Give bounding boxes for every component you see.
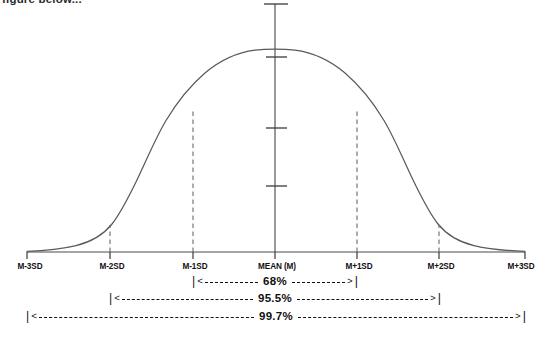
bracket-68-left-line xyxy=(205,282,258,284)
axis-label-m-2sd: M-2SD xyxy=(100,262,125,272)
bracket-955-left-cap: | xyxy=(107,293,114,305)
normal-curve-path xyxy=(27,49,525,251)
bracket-68-value: 68% xyxy=(260,275,290,287)
bracket-955: | < 95.5% > | xyxy=(107,292,443,306)
bracket-68-left-arrow: < xyxy=(197,276,203,288)
bracket-997-left-cap: | xyxy=(24,311,31,323)
bracket-955-left-arrow: < xyxy=(114,293,120,305)
bracket-997-value: 99.7% xyxy=(256,310,296,322)
bracket-955-value: 95.5% xyxy=(255,292,295,304)
bracket-68: | < 68% > | xyxy=(190,275,360,289)
normal-distribution-figure: figure below... xyxy=(0,0,551,339)
bracket-997-left-arrow: < xyxy=(31,311,37,323)
axis-label-m-plus-2sd: M+2SD xyxy=(427,262,454,272)
axis-label-m-1sd: M-1SD xyxy=(183,262,208,272)
bracket-68-left-cap: | xyxy=(190,276,197,288)
bracket-68-right-cap: | xyxy=(353,276,360,288)
axis-label-mean: MEAN (M) xyxy=(258,262,296,272)
bracket-997: | < 99.7% > | xyxy=(24,310,528,324)
bracket-997-right-cap: | xyxy=(521,311,528,323)
axis-label-m-plus-1sd: M+1SD xyxy=(345,262,372,272)
y-axis-ticks xyxy=(264,4,288,186)
bracket-955-left-line xyxy=(122,299,253,301)
axis-label-m-plus-3sd: M+3SD xyxy=(507,262,534,272)
bracket-997-left-line xyxy=(39,317,254,319)
bracket-68-right-line xyxy=(292,282,345,284)
x-axis-ticks xyxy=(27,252,525,259)
bracket-955-right-cap: | xyxy=(436,293,443,305)
bracket-955-right-line xyxy=(297,299,428,301)
bracket-997-right-line xyxy=(298,317,513,319)
axis-label-m-3sd: M-3SD xyxy=(18,262,43,272)
